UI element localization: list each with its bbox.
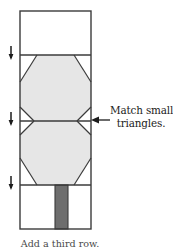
callout-text: Match small triangles.	[110, 104, 172, 129]
bottom-caption: Add a third row.	[14, 238, 106, 247]
callout-line-1: Match small	[110, 104, 172, 117]
dark-vertical-strip	[55, 185, 68, 229]
diagram-canvas: Match small triangles. Add a third row.	[0, 0, 173, 247]
callout-line-2: triangles.	[110, 117, 172, 130]
